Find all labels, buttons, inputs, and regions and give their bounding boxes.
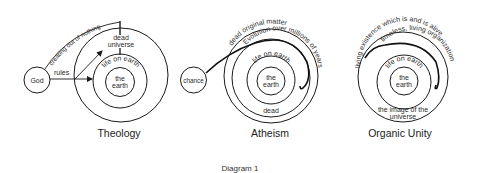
organic-the-label: the — [399, 74, 409, 81]
organic-unity-diagram: living existence which is and is alive t… — [354, 15, 456, 139]
atheism-dead-label: dead — [263, 107, 279, 114]
organic-unity-title: Organic Unity — [368, 127, 432, 139]
atheism-title: Atheism — [251, 127, 289, 139]
chance-label: chance — [183, 77, 204, 84]
atheism-diagram: chance dead original matter Evolution ov… — [181, 17, 325, 139]
dead-label: dead — [113, 34, 129, 41]
theology-earth-label: earth — [112, 82, 128, 89]
rules-label: rules — [54, 69, 70, 76]
theology-title: Theology — [97, 127, 141, 139]
universe-label: universe — [108, 41, 135, 48]
diagram-figure: God creating out of nothing rules dead u… — [0, 0, 478, 173]
organic-earth-label: earth — [396, 81, 412, 88]
diagram-canvas: God creating out of nothing rules dead u… — [0, 0, 478, 173]
atheism-life-on-earth-label: life on earth — [251, 49, 292, 64]
diagram-caption: Diagram 1 — [222, 164, 259, 173]
atheism-earth-label: earth — [263, 81, 279, 88]
theology-the-label: the — [115, 75, 125, 82]
timeless-organization-label: timeless, living organization — [379, 24, 457, 62]
atheism-the-label: the — [266, 74, 276, 81]
god-label: God — [30, 77, 43, 84]
universe-image-label: universe — [390, 113, 417, 120]
theology-life-on-earth-label: life on earth — [100, 54, 141, 68]
theology-diagram: God creating out of nothing rules dead u… — [24, 21, 168, 139]
